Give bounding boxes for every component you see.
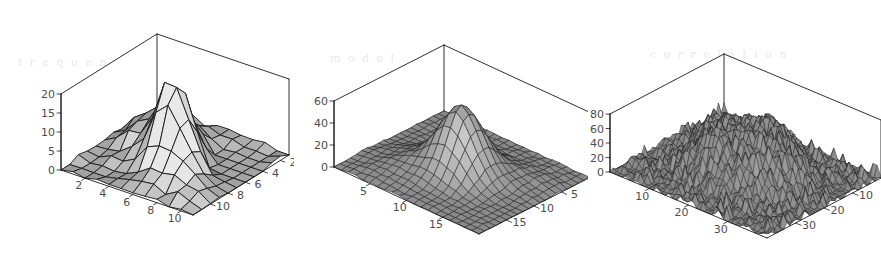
- surface-plot-panel-3: 102030302010806040200: [588, 0, 881, 258]
- surface-plot-svg-3: 102030302010806040200: [588, 0, 881, 258]
- z-axis-tick-label: 40: [314, 117, 328, 130]
- x-axis-tick-label: 8: [147, 204, 154, 217]
- z-axis-tick-label: 60: [314, 95, 328, 108]
- z-axis-tick-label: 15: [41, 107, 55, 120]
- z-axis-tick-label: 0: [597, 166, 604, 179]
- x-axis-tick-label: 10: [635, 190, 649, 203]
- z-axis-tick-label: 20: [41, 88, 55, 101]
- z-axis-tick-label: 40: [590, 137, 604, 150]
- x-axis-tick-label: 4: [99, 187, 106, 200]
- y-axis-tick-label: 30: [802, 219, 816, 232]
- z-axis-tick-label: 20: [590, 152, 604, 165]
- z-axis-tick-label: 60: [590, 123, 604, 136]
- y-axis-tick-label: 6: [254, 178, 261, 191]
- x-axis-tick-label: 6: [123, 196, 130, 209]
- y-axis-tick-label: 5: [571, 188, 578, 201]
- x-axis-tick-label: 5: [360, 185, 367, 198]
- y-axis-tick-label: 10: [540, 202, 554, 215]
- x-axis-tick-label: 20: [675, 206, 689, 219]
- z-axis-tick-label: 10: [41, 126, 55, 139]
- x-axis-tick-label: 30: [714, 223, 728, 236]
- y-axis-tick-label: 15: [513, 216, 527, 229]
- surface-plot-svg-2: 51015151056040200: [294, 0, 588, 258]
- surface-plot-panel-2: 51015151056040200: [294, 0, 588, 258]
- z-axis-tick-label: 5: [48, 145, 55, 158]
- y-axis-tick-label: 8: [237, 189, 244, 202]
- y-axis-tick-label: 20: [830, 204, 844, 217]
- x-axis-tick-label: 10: [168, 212, 182, 225]
- surface-plot-panel-1: 24681010864220151050: [0, 0, 294, 258]
- y-axis-tick-label: 10: [859, 189, 873, 202]
- three-surface-plot-figure: s p e c t r u mt e xc o r r e l a t i o …: [0, 0, 881, 258]
- z-axis-tick-label: 80: [590, 108, 604, 121]
- x-axis-tick-label: 10: [393, 201, 407, 214]
- z-axis-tick-label: 0: [321, 161, 328, 174]
- y-axis-tick-label: 10: [216, 200, 230, 213]
- y-axis-tick-label: 4: [272, 167, 279, 180]
- x-axis-tick-label: 15: [429, 218, 443, 231]
- x-axis-tick-label: 2: [75, 179, 82, 192]
- z-axis-tick-label: 0: [48, 164, 55, 177]
- surface-plot-svg-1: 24681010864220151050: [0, 0, 294, 258]
- z-axis-tick-label: 20: [314, 139, 328, 152]
